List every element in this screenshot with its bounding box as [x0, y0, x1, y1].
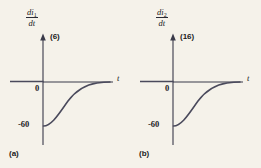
panel-caption-b: (b)	[139, 150, 149, 158]
exponential-curve-b	[174, 82, 241, 126]
equation-number-b: (16)	[180, 33, 194, 41]
y-axis-b	[170, 34, 176, 146]
figure-panel-a: di1 dt (6) 0 t -60 (a)	[0, 0, 130, 168]
x-axis-label-a: t	[117, 74, 119, 83]
exponential-curve-a	[44, 82, 111, 126]
equation-number-a: (6)	[50, 33, 60, 41]
plot-b-graphics	[130, 0, 260, 168]
min-value-label-b: -60	[148, 120, 159, 129]
y-axis-a	[40, 34, 46, 146]
panel-caption-a: (a)	[9, 150, 19, 158]
figure-panel-b: di2 dt (16) 0 t -60 (b)	[130, 0, 260, 168]
x-axis-label-b: t	[247, 74, 249, 83]
y-axis-label-b: di2 dt	[156, 8, 168, 27]
origin-label-a: 0	[35, 84, 39, 93]
y-axis-label-a: di1 dt	[26, 8, 38, 27]
min-value-label-a: -60	[18, 120, 29, 129]
plot-a-graphics	[0, 0, 130, 168]
figure-sheet: di1 dt (6) 0 t -60 (a) di2 dt	[0, 0, 261, 168]
origin-label-b: 0	[165, 84, 169, 93]
